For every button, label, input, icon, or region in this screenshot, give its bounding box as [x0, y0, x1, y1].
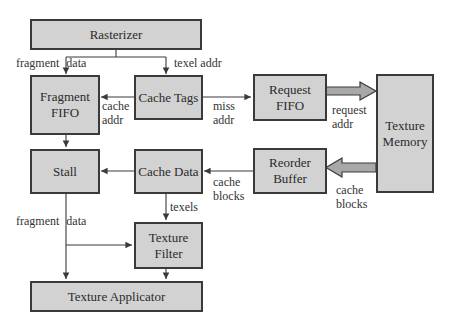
miss-addr-label-2: addr	[213, 113, 234, 127]
miss-addr-label-1: miss	[213, 99, 235, 113]
cache-data-block: Cache Data	[134, 149, 203, 194]
texture-applicator-block: Texture Applicator	[30, 281, 203, 312]
request-addr-label-1: request	[332, 103, 367, 117]
stall-block: Stall	[30, 149, 100, 194]
stall-label: Stall	[53, 164, 77, 180]
wide-arrow-cache-blocks	[326, 158, 376, 177]
cache-blocks-mem-label-1: cache	[336, 183, 363, 197]
request-fifo-label: Request FIFO	[262, 82, 318, 114]
rasterizer-label: Rasterizer	[90, 27, 143, 43]
fragment-data-top-label: fragment data	[16, 56, 86, 70]
cache-addr-label-2: addr	[102, 113, 123, 127]
wide-arrow-request	[326, 82, 376, 100]
cache-blocks-rb-label-1: cache	[213, 175, 240, 189]
texture-memory-label: Texture Memory	[379, 118, 431, 150]
texture-memory-block: Texture Memory	[376, 74, 434, 193]
texture-filter-block: Texture Filter	[134, 222, 203, 269]
cache-blocks-mem-label-2: blocks	[336, 197, 367, 211]
fragment-fifo-block: Fragment FIFO	[30, 75, 100, 135]
reorder-buffer-block: Reorder Buffer	[253, 148, 327, 194]
fragment-data-bottom-label: fragment data	[16, 214, 86, 228]
reorder-buffer-label: Reorder Buffer	[262, 155, 318, 187]
cache-tags-block: Cache Tags	[134, 75, 203, 120]
cache-addr-label-1: cache	[102, 99, 129, 113]
texture-filter-label: Texture Filter	[143, 230, 195, 262]
texels-label: texels	[170, 200, 198, 214]
cache-tags-label: Cache Tags	[139, 90, 199, 106]
cache-data-label: Cache Data	[138, 164, 198, 180]
cache-blocks-rb-label-2: blocks	[213, 189, 244, 203]
texture-applicator-label: Texture Applicator	[68, 289, 166, 305]
request-fifo-block: Request FIFO	[253, 74, 327, 121]
fragment-fifo-label: Fragment FIFO	[35, 89, 95, 121]
request-addr-label-2: addr	[332, 117, 353, 131]
texel-addr-label: texel addr	[174, 56, 222, 70]
rasterizer-block: Rasterizer	[30, 19, 202, 50]
